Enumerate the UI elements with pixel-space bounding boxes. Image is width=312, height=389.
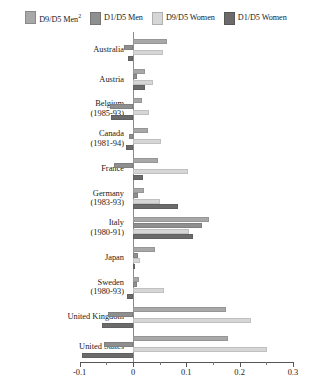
bar: [133, 288, 164, 293]
bar: [133, 169, 188, 174]
axis-major-tick: [293, 362, 294, 367]
bar: [114, 163, 133, 168]
axis-tick-label: 0.2: [220, 368, 260, 378]
legend-label-d1d5_women: D1/D5 Women: [238, 13, 287, 23]
earnings-inequality-bar-chart: D9/D5 Men2D1/D5 MenD9/D5 WomenD1/D5 Wome…: [0, 0, 312, 389]
bar: [127, 294, 133, 299]
axis-minor-tick: [213, 362, 214, 365]
bar: [133, 234, 193, 239]
axis-minor-tick: [106, 362, 107, 365]
bar: [133, 193, 138, 198]
axis-minor-tick: [160, 362, 161, 365]
legend-label-d1d5_men: D1/D5 Men: [104, 13, 143, 23]
axis-tick-label: -0.1: [60, 368, 100, 378]
legend-label-d9d5_men: D9/D5 Men2: [39, 11, 81, 25]
axis-major-tick: [240, 362, 241, 367]
bar: [133, 188, 144, 193]
axis-tick-label: 0.3: [273, 368, 312, 378]
bar: [110, 104, 133, 109]
legend-superscript: 2: [78, 13, 81, 19]
bar: [133, 139, 161, 144]
bar: [133, 217, 209, 222]
bar: [133, 98, 142, 103]
bar: [124, 45, 133, 50]
bar: [128, 56, 133, 61]
bar: [133, 258, 140, 263]
bar: [133, 318, 251, 323]
bar: [129, 134, 133, 139]
bar: [133, 247, 155, 252]
bars-region: [0, 32, 312, 362]
bar: [133, 74, 137, 79]
axis-major-tick: [133, 362, 134, 367]
bar: [133, 85, 145, 90]
axis-tick-label: 0.1: [166, 368, 206, 378]
bar: [133, 50, 163, 55]
bar: [133, 307, 226, 312]
legend-label-d9d5_women: D9/D5 Women: [166, 13, 215, 23]
legend-item-d1d5_women[interactable]: D1/D5 Women: [224, 12, 287, 25]
bar: [133, 128, 148, 133]
bar: [133, 223, 202, 228]
bar: [133, 110, 149, 115]
axis-major-tick: [186, 362, 187, 367]
bar: [133, 69, 145, 74]
bar: [133, 347, 267, 352]
axis-major-tick: [80, 362, 81, 367]
value-axis: -0.100.10.20.3: [0, 362, 312, 389]
bar: [133, 229, 189, 234]
bar: [126, 145, 133, 150]
axis-minor-tick: [266, 362, 267, 365]
bar: [133, 199, 160, 204]
bar: [102, 323, 133, 328]
plot-area: AustraliaAustriaBelgium(1985-93)Canada(1…: [0, 32, 312, 362]
bar: [133, 204, 178, 209]
chart-legend: D9/D5 Men2D1/D5 MenD9/D5 WomenD1/D5 Wome…: [0, 10, 312, 26]
bar: [82, 353, 133, 358]
bar: [133, 264, 135, 269]
legend-swatch-d1d5_men: [90, 12, 101, 25]
bar: [111, 115, 133, 120]
bar: [133, 158, 158, 163]
bar: [104, 342, 133, 347]
bar: [133, 175, 143, 180]
legend-swatch-d9d5_men: [25, 11, 36, 24]
axis-tick-label: 0: [113, 368, 153, 378]
bar: [133, 282, 137, 287]
bar: [133, 80, 153, 85]
bar: [133, 253, 138, 258]
legend-swatch-d9d5_women: [152, 12, 163, 25]
legend-item-d9d5_men[interactable]: D9/D5 Men2: [25, 11, 81, 25]
bar: [108, 312, 133, 317]
bar: [133, 336, 228, 341]
legend-item-d1d5_men[interactable]: D1/D5 Men: [90, 12, 143, 25]
legend-swatch-d1d5_women: [224, 12, 235, 25]
bar: [133, 39, 167, 44]
bar: [133, 277, 139, 282]
legend-item-d9d5_women[interactable]: D9/D5 Women: [152, 12, 215, 25]
